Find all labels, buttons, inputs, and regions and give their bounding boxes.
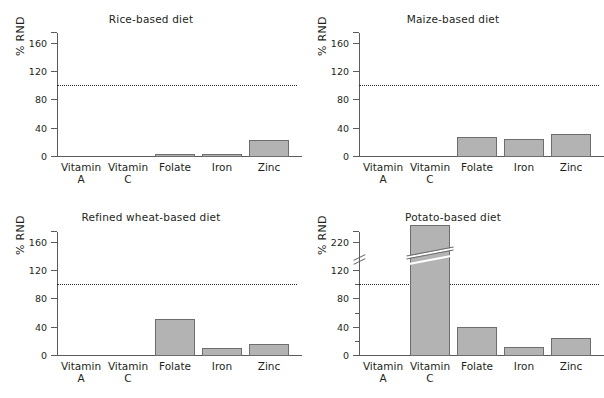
y-tick-label: 120 [29, 66, 47, 77]
y-axis-label: % RND [316, 215, 329, 255]
y-tick-mark [51, 355, 57, 356]
plot-area: 160 120 80 40 0 Vitamin A Vitamin C Fola… [57, 232, 293, 356]
y-axis-line [57, 33, 58, 157]
y-tick-mark [51, 242, 57, 243]
y-tick-mark [353, 231, 359, 232]
bar-folate [457, 137, 497, 158]
y-axis-line [359, 33, 360, 157]
panel-title: Refined wheat-based diet [0, 211, 302, 223]
x-category-zinc: Zinc [235, 360, 303, 372]
y-tick-label: 120 [331, 265, 349, 276]
panel-rice-based-diet: Rice-based diet % RND 160 120 80 40 0 Vi… [0, 0, 302, 199]
x-category-zinc: Zinc [537, 360, 604, 372]
y-tick-mark [353, 355, 359, 356]
y-tick-label: 40 [35, 322, 47, 333]
plot-area: 160 120 80 40 0 Vitamin A Vitamin C Fola… [57, 33, 293, 157]
y-tick-mark [51, 71, 57, 72]
y-tick-mark-minor [355, 341, 359, 342]
y-tick-mark [353, 128, 359, 129]
panel-title: Potato-based diet [302, 211, 604, 223]
y-tick-label: 220 [331, 237, 349, 248]
figure-micronutrient-rnd-panels: Rice-based diet % RND 160 120 80 40 0 Vi… [0, 0, 604, 398]
y-tick-mark [51, 156, 57, 157]
y-tick-label: 160 [331, 38, 349, 49]
bar-vitamin-c [410, 225, 450, 356]
bar-iron [202, 154, 242, 158]
bar-iron [202, 348, 242, 357]
bar-zinc [249, 344, 289, 356]
y-axis-line [359, 232, 360, 356]
bar-folate [155, 319, 195, 356]
y-tick-label: 40 [337, 322, 349, 333]
y-tick-label: 40 [35, 123, 47, 134]
y-tick-label: 160 [29, 237, 47, 248]
y-tick-mark [353, 43, 359, 44]
y-axis-line [57, 232, 58, 356]
y-tick-label: 120 [29, 265, 47, 276]
bar-iron [504, 139, 544, 157]
y-tick-label: 120 [331, 66, 349, 77]
y-tick-mark [51, 43, 57, 44]
y-tick-mark [51, 32, 57, 33]
panel-title: Maize-based diet [302, 13, 604, 25]
y-tick-mark [353, 156, 359, 157]
x-category-zinc: Zinc [235, 161, 303, 173]
panel-maize-based-diet: Maize-based diet % RND 160 120 80 40 0 V… [302, 0, 604, 199]
y-tick-label: 80 [337, 94, 349, 105]
y-tick-label: 80 [337, 293, 349, 304]
bar-folate [155, 154, 195, 158]
reference-line-100-rnd [359, 284, 599, 285]
y-tick-mark [353, 99, 359, 100]
bar-zinc [551, 338, 591, 356]
y-tick-mark [51, 99, 57, 100]
plot-area: 160 120 80 40 0 Vitamin A Vitamin C Fola… [359, 33, 595, 157]
y-tick-mark [353, 32, 359, 33]
bar-zinc [249, 140, 289, 157]
bar-zinc [551, 134, 591, 157]
y-axis-label: % RND [14, 215, 27, 255]
panel-title: Rice-based diet [0, 13, 302, 25]
y-tick-mark [353, 327, 359, 328]
y-tick-mark-minor [355, 313, 359, 314]
y-tick-mark [353, 71, 359, 72]
panel-potato-based-diet: Potato-based diet % RND 220 120 80 40 0 [302, 199, 604, 398]
y-tick-mark [51, 327, 57, 328]
y-tick-mark [51, 128, 57, 129]
reference-line-100-rnd [57, 85, 297, 86]
y-tick-mark [51, 298, 57, 299]
panel-refined-wheat-based-diet: Refined wheat-based diet % RND 160 120 8… [0, 199, 302, 398]
reference-line-100-rnd [57, 284, 297, 285]
y-tick-label: 160 [29, 38, 47, 49]
y-axis-label: % RND [316, 16, 329, 56]
y-tick-mark [51, 270, 57, 271]
y-tick-mark [353, 242, 359, 243]
y-tick-mark [51, 231, 57, 232]
bar-iron [504, 347, 544, 356]
y-tick-label: 80 [35, 94, 47, 105]
y-tick-label: 80 [35, 293, 47, 304]
bar-folate [457, 327, 497, 356]
reference-line-100-rnd [359, 85, 599, 86]
y-tick-mark [353, 298, 359, 299]
y-tick-mark [353, 270, 359, 271]
y-axis-label: % RND [14, 16, 27, 56]
plot-area: 220 120 80 40 0 Vitamin A Vitamin C [359, 232, 595, 356]
x-category-zinc: Zinc [537, 161, 604, 173]
y-axis-break-icon [353, 252, 366, 264]
y-tick-label: 40 [337, 123, 349, 134]
